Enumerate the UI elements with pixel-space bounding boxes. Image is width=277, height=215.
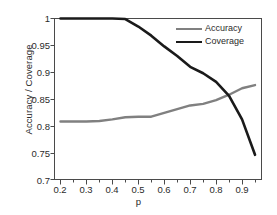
legend-item-accuracy: Accuracy <box>176 22 244 35</box>
y-tick-label: 0.95 <box>4 40 50 51</box>
legend-swatch-coverage <box>176 41 202 43</box>
chart-figure: Accuracy / Coverage 1 0.95 0.9 0.85 0.8 … <box>0 0 277 215</box>
y-axis-tick-labels: 1 0.95 0.9 0.85 0.8 0.75 0.7 <box>0 0 50 215</box>
legend-item-coverage: Coverage <box>176 35 244 48</box>
y-axis-major-ticks <box>51 19 55 180</box>
legend-label-coverage: Coverage <box>205 36 244 47</box>
y-tick-label: 1 <box>4 13 50 24</box>
y-tick-label: 0.8 <box>4 121 50 132</box>
x-axis-title: p <box>0 196 277 207</box>
y-tick-label: 0.9 <box>4 67 50 78</box>
chart-legend: Accuracy Coverage <box>176 22 244 48</box>
y-tick-label: 0.75 <box>4 148 50 159</box>
legend-swatch-accuracy <box>176 28 202 30</box>
x-tick-label: 0.9 <box>225 184 259 195</box>
y-tick-label: 0.85 <box>4 94 50 105</box>
legend-label-accuracy: Accuracy <box>205 23 242 34</box>
